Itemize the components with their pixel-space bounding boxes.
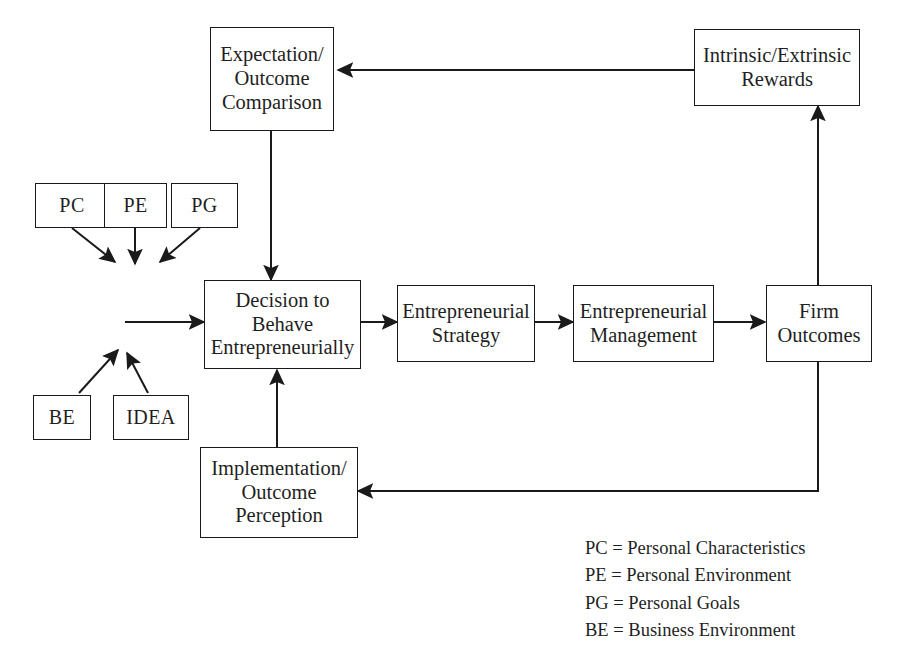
legend-item-pe: PE = Personal Environment xyxy=(585,562,806,589)
diagram-canvas: Expectation/ Outcome Comparison Intrinsi… xyxy=(0,0,901,656)
node-label: Entrepreneurial Strategy xyxy=(398,300,533,348)
node-label: BE xyxy=(45,406,79,429)
legend-item-pc: PC = Personal Characteristics xyxy=(585,535,806,562)
node-entrepreneurial-management[interactable]: Entrepreneurial Management xyxy=(573,285,714,362)
node-label: Entrepreneurial Management xyxy=(576,300,711,348)
node-expectation-outcome-comparison[interactable]: Expectation/ Outcome Comparison xyxy=(210,27,334,131)
node-label: Firm Outcomes xyxy=(773,300,864,348)
node-label: Intrinsic/Extrinsic Rewards xyxy=(699,44,855,92)
node-intrinsic-extrinsic-rewards[interactable]: Intrinsic/Extrinsic Rewards xyxy=(694,29,860,106)
legend-item-pg: PG = Personal Goals xyxy=(585,590,806,617)
node-pg[interactable]: PG xyxy=(171,183,238,228)
legend-item-be: BE = Business Environment xyxy=(585,617,806,644)
node-label: IDEA xyxy=(122,406,179,429)
node-pe[interactable]: PE xyxy=(104,183,167,228)
edge-pc-to-decision xyxy=(72,228,115,262)
edge-idea-to-inflow xyxy=(127,353,148,393)
node-label: Expectation/ Outcome Comparison xyxy=(216,43,328,114)
legend: PC = Personal Characteristics PE = Perso… xyxy=(585,535,806,645)
node-firm-outcomes[interactable]: Firm Outcomes xyxy=(766,285,872,362)
node-label: Implementation/ Outcome Perception xyxy=(207,457,351,528)
edge-firm-outcomes-to-implementation xyxy=(358,362,818,491)
node-be[interactable]: BE xyxy=(33,395,91,440)
node-implementation-outcome-perception[interactable]: Implementation/ Outcome Perception xyxy=(200,447,358,538)
node-idea[interactable]: IDEA xyxy=(113,395,189,440)
node-entrepreneurial-strategy[interactable]: Entrepreneurial Strategy xyxy=(397,285,535,362)
edge-pg-to-decision xyxy=(160,228,200,262)
node-label: PE xyxy=(119,194,151,217)
node-label: PC xyxy=(55,194,88,217)
node-pc[interactable]: PC xyxy=(35,183,109,228)
node-decision-to-behave-entrepreneurially[interactable]: Decision to Behave Entrepreneurially xyxy=(204,280,361,369)
node-label: PG xyxy=(187,194,221,217)
node-label: Decision to Behave Entrepreneurially xyxy=(207,289,358,360)
edge-be-to-inflow xyxy=(79,350,118,393)
